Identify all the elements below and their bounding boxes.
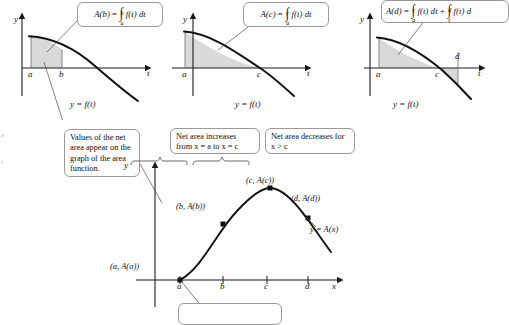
shaded-area-ac [185,32,260,68]
panel-d-tick-d: d [455,51,460,61]
leader-from-callout [140,164,162,203]
callout-net-area-increases: Net area increases from x = a to x = c [170,128,260,154]
brace-decreasing [193,157,249,165]
main-graph [110,155,360,315]
panel-c-t-label: t [307,68,310,78]
main-y-label: y [124,160,128,170]
panel-b-curve-label: y = f(t) [70,99,96,109]
main-tick-label-d: d [305,281,310,291]
panel-d-tick-a: a [376,69,381,79]
marker-point-d [306,216,311,221]
panel-d-curve-label: y = f(t) [393,99,419,109]
marker-point-c [268,186,273,191]
panel-b-formula-box: A(b) = ∫ba f(t) dt [77,2,163,27]
panel-b-y-label: y [14,14,18,24]
panel-d-formula: A(d) = ∫ca f(t) dt + ∫dc f(t) d [386,6,471,16]
margin-mark-bottom: t [1,158,3,166]
marker-point-b [221,222,226,227]
point-label-d: (d, A(d)) [291,193,320,203]
panel-b-formula: A(b) = ∫ba f(t) dt [94,9,146,19]
panel-b-t-label: t [147,68,150,78]
panel-d-tick-c: c [435,69,439,79]
panel-d-y-label: y [360,14,364,24]
main-x-label: x [332,281,336,291]
main-tick-label-c: c [264,281,268,291]
main-tick-label-b: b [220,281,225,291]
panel-c-tick-a: a [182,69,187,79]
panel-c-formula: A(c) = ∫ca f(t) dt [260,9,311,19]
panel-c-y-label: y [183,14,187,24]
leader-formula [47,20,78,52]
main-tick-label-a: a [177,281,182,291]
panel-b-tick-a: a [28,69,33,79]
brace-increasing [131,157,187,165]
panel-c-formula-box: A(c) = ∫ca f(t) dt [243,2,329,27]
shaded-area-ac [379,38,438,68]
panel-d-formula-box: A(d) = ∫ca f(t) dt + ∫dc f(t) d [381,0,509,23]
point-label-c: (c, A(c)) [246,175,274,185]
margin-mark-top: e [1,131,4,139]
point-label-b: (b, A(b)) [176,201,205,211]
panel-b-tick-b: b [59,69,64,79]
point-label-a: (a, A(a)) [110,261,139,271]
callout-net-area-decreases: Net area decreases for x > c [265,128,355,154]
callout-cut-off-bottom [178,303,282,325]
panel-d-t-label: t [478,68,481,78]
panel-c-tick-c: c [257,69,261,79]
main-curve-label: y = A(x) [310,224,338,234]
panel-c-curve-label: y = f(t) [235,99,261,109]
